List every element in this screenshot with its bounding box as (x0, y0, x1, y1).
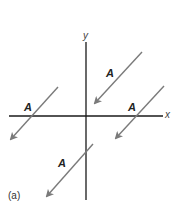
vector-arrow-1 (95, 52, 142, 103)
vector-arrow-2 (116, 86, 164, 138)
x-axis-label: x (165, 109, 170, 120)
vector-diagram: y x A A A A (a) (0, 0, 180, 218)
vector-label-4: A (58, 157, 66, 169)
vector-label-1: A (106, 67, 114, 79)
y-axis-label: y (83, 30, 88, 41)
vector-label-3: A (24, 101, 32, 113)
vector-arrow-3 (11, 87, 58, 139)
vector-label-2: A (128, 101, 136, 113)
figure-caption: (a) (8, 190, 20, 201)
